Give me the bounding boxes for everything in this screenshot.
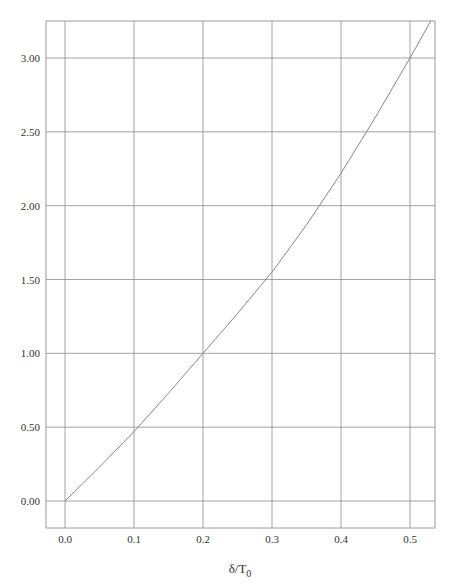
y-tick-label: 0.50 (21, 421, 41, 433)
y-tick-label: 1.50 (21, 274, 41, 286)
grid-lines (46, 21, 435, 528)
x-tick-label: 0.1 (127, 533, 141, 545)
x-axis-label: δ/T0 (229, 561, 252, 579)
y-axis-tick-labels: 0.000.501.001.502.002.503.00 (21, 52, 41, 507)
y-tick-label: 1.00 (21, 347, 41, 359)
x-tick-label: 0.3 (265, 533, 279, 545)
data-curve (65, 21, 431, 501)
y-tick-label: 3.00 (21, 52, 41, 64)
y-tick-label: 2.00 (21, 200, 41, 212)
x-axis-label-main: δ/T (229, 561, 247, 576)
chart: 0.000.501.001.502.002.503.00 0.00.10.20.… (0, 0, 452, 588)
x-tick-label: 0.2 (196, 533, 210, 545)
x-axis-label-subscript: 0 (246, 568, 251, 579)
x-axis-tick-labels: 0.00.10.20.30.40.5 (58, 533, 417, 545)
y-tick-label: 0.00 (21, 495, 41, 507)
plot-area-frame (46, 21, 435, 528)
x-tick-label: 0.4 (334, 533, 348, 545)
y-tick-label: 2.50 (21, 126, 41, 138)
x-tick-label: 0.0 (58, 533, 72, 545)
x-tick-label: 0.5 (403, 533, 417, 545)
